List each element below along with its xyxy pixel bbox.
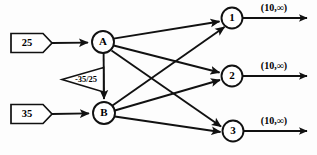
node-1-label: 1 [229, 11, 235, 23]
edge-b-3-line [115, 117, 221, 133]
node-2: 2 [222, 66, 243, 87]
edge-supply35-b-line [52, 113, 89, 114]
node-a-label: A [99, 35, 107, 47]
edge-b-to-1 [113, 27, 225, 106]
node-b-label: B [100, 106, 108, 118]
edge-b-2-line [115, 80, 220, 111]
edge-a-to-3 [112, 51, 222, 127]
node-3-label: 3 [230, 124, 236, 136]
node-2-label: 2 [229, 69, 235, 81]
supply-node-25: 25 [11, 34, 52, 53]
node-3: 3 [223, 121, 244, 142]
edge-b-to-2 [115, 80, 220, 111]
flag-annotation-label: -35/25 [75, 74, 97, 84]
network-diagram-svg: 25 35 -35/25 A B 1 2 [0, 0, 317, 155]
supply-node-35-label: 35 [22, 108, 33, 119]
edge-a-3-line [112, 51, 222, 127]
output-arc-3-capacity-label: (10,∞) [261, 115, 287, 127]
supply-node-35: 35 [11, 105, 52, 124]
node-b: B [93, 102, 115, 124]
network-flow-diagram: 25 35 -35/25 A B 1 2 [0, 0, 317, 155]
edge-a-1-line [113, 22, 219, 39]
node-a: A [92, 31, 114, 53]
output-arc-2-capacity-label: (10,∞) [261, 60, 287, 72]
output-arc-1-capacity-label: (10,∞) [261, 2, 287, 14]
edge-b-1-line [113, 27, 225, 106]
edge-b-to-3 [115, 117, 221, 133]
flag-annotation-a-b: -35/25 [62, 68, 104, 93]
node-1: 1 [222, 8, 243, 29]
supply-node-25-label: 25 [22, 37, 33, 48]
edge-a-to-1 [113, 22, 219, 39]
supply-arc-35-to-b [52, 113, 89, 114]
